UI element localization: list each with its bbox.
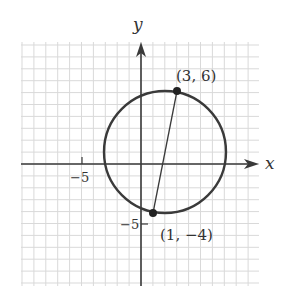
point-label-3-6: (3, 6) xyxy=(176,67,216,85)
x-tick-label: −5 xyxy=(70,170,89,185)
x-axis: x xyxy=(21,153,275,173)
point-1-neg4 xyxy=(149,209,157,217)
point-label-1-neg4: (1, −4) xyxy=(160,226,213,244)
y-axis-label: y xyxy=(132,14,143,34)
coordinate-plane-figure: x y −5 −5 (3, 6) (1, −4) xyxy=(0,0,286,286)
x-axis-label: x xyxy=(265,153,275,173)
y-tick-label: −5 xyxy=(120,217,139,232)
x-tick-minus-5: −5 xyxy=(70,157,89,185)
y-tick-minus-5: −5 xyxy=(120,217,148,232)
point-3-6 xyxy=(173,87,181,95)
y-axis: y xyxy=(132,14,146,286)
